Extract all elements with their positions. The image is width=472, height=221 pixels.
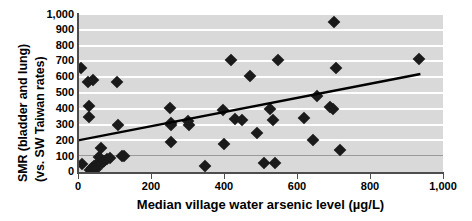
- x-tick-label: 400: [215, 180, 233, 192]
- x-tick-mark: [370, 174, 371, 179]
- data-point: [250, 127, 263, 140]
- y-tick-label: 0: [40, 166, 74, 177]
- gridline: [78, 60, 443, 62]
- y-axis-title: SMR (bladder and lung) (vs. SW Taiwan ra…: [0, 0, 44, 190]
- x-tick-label: 0: [75, 180, 81, 192]
- gridline-100: [78, 155, 443, 156]
- x-axis-line: [77, 172, 444, 174]
- x-tick-mark: [151, 174, 152, 179]
- y-tick-label: 600: [40, 71, 74, 82]
- y-tick-label: 900: [40, 24, 74, 35]
- data-point: [78, 61, 87, 74]
- x-tick-label: 1,000: [429, 180, 457, 192]
- y-axis-tick-labels: 1,000 900 800 700 600 500 400 300 200 10…: [40, 0, 74, 190]
- data-point: [413, 53, 426, 66]
- data-point: [225, 53, 238, 66]
- y-tick-label: 100: [40, 151, 74, 162]
- y-tick-label: 400: [40, 103, 74, 114]
- data-point: [330, 61, 343, 74]
- data-point: [217, 104, 230, 117]
- y-tick-label: 300: [40, 119, 74, 130]
- y-tick-label: 1,000: [40, 9, 74, 20]
- data-point: [307, 134, 320, 147]
- data-point: [164, 102, 177, 115]
- data-point: [263, 102, 276, 115]
- y-axis-line: [77, 13, 79, 173]
- data-point: [83, 111, 96, 124]
- gridline: [78, 14, 443, 15]
- x-tick-mark: [297, 174, 298, 179]
- data-point: [269, 157, 282, 170]
- x-tick-label: 200: [142, 180, 160, 192]
- gridline: [78, 139, 443, 141]
- x-tick-mark: [224, 174, 225, 179]
- y-tick-label: 700: [40, 55, 74, 66]
- data-point: [272, 53, 285, 66]
- x-tick-mark: [78, 174, 79, 179]
- scatter-plot-figure: SMR (bladder and lung) (vs. SW Taiwan ra…: [0, 0, 472, 221]
- y-tick-label: 800: [40, 40, 74, 51]
- x-tick-mark: [443, 174, 444, 179]
- x-tick-label: 800: [361, 180, 379, 192]
- data-point: [327, 16, 340, 29]
- y-axis-title-line-1: SMR (bladder and lung): [16, 44, 30, 182]
- gridline: [78, 45, 443, 47]
- data-point: [165, 136, 178, 149]
- gridline: [78, 92, 443, 94]
- x-tick-label: 600: [288, 180, 306, 192]
- data-point: [199, 160, 212, 172]
- data-point: [243, 69, 256, 82]
- plot-area: [78, 14, 443, 172]
- gridline: [78, 29, 443, 31]
- data-point: [112, 119, 125, 132]
- x-axis-title: Median village water arsenic level (µg/L…: [78, 197, 443, 212]
- y-tick-label: 500: [40, 87, 74, 98]
- gridline: [78, 76, 443, 78]
- y-tick-label: 200: [40, 135, 74, 146]
- gridline: [78, 124, 443, 126]
- gridline: [78, 108, 443, 110]
